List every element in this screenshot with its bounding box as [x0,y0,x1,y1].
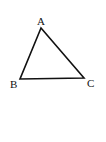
triangle-abc [20,28,84,79]
diagram-canvas: A B C [0,0,106,142]
triangle-diagram: A B C [0,0,106,142]
vertex-label-b: B [10,78,17,90]
vertex-label-c: C [87,77,94,89]
vertex-label-a: A [37,15,45,27]
